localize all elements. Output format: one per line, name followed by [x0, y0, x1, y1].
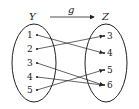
mapping-diagram: g Y Z 1 2 3 4 5 3 4 5 6: [0, 0, 139, 109]
set-z-ellipse: [85, 24, 127, 102]
set-y-ellipse: [12, 24, 56, 102]
y-element-1: 1: [27, 30, 33, 40]
z-element-5: 5: [107, 65, 113, 75]
z-element-6: 6: [107, 80, 113, 90]
map-5-to-5: [37, 70, 103, 90]
set-z-label: Z: [101, 11, 110, 22]
z-element-3: 3: [107, 31, 113, 41]
y-element-2: 2: [27, 44, 33, 54]
map-4-to-6: [37, 77, 103, 85]
z-element-4: 4: [107, 48, 113, 58]
y-element-3: 3: [27, 58, 33, 68]
y-element-5: 5: [27, 85, 33, 95]
y-element-4: 4: [27, 72, 33, 82]
function-label: g: [68, 4, 74, 15]
map-3-to-6: [37, 63, 103, 85]
